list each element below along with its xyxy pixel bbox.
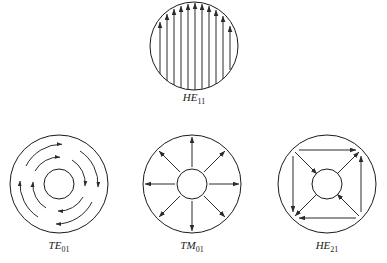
he11-arrow-group: [160, 3, 230, 90]
field-arrow-arc: [20, 181, 38, 217]
label-main: TE: [49, 239, 62, 251]
field-arrow: [159, 151, 180, 172]
label-sub: 11: [197, 97, 205, 106]
te01-inner-circle: [44, 169, 74, 199]
mode-label-tm01: TM01: [180, 239, 203, 254]
label-sub: 01: [61, 245, 69, 254]
panel-te01: TE01: [10, 135, 108, 254]
field-arrow-arc: [80, 151, 98, 187]
field-arrow: [295, 194, 317, 216]
tm01-inner-circle: [177, 169, 207, 199]
field-arrow: [159, 196, 180, 217]
panel-he11: HE11: [150, 2, 238, 106]
mode-diagram-canvas: HE11 TE01: [0, 0, 387, 263]
field-arrow: [204, 151, 225, 172]
he21-arrow-group: [293, 150, 361, 218]
te01-outer-circle: [10, 135, 108, 233]
mode-pattern-figure: HE11 TE01: [0, 0, 387, 263]
mode-label-he11: HE11: [182, 91, 205, 106]
field-arrow: [295, 152, 317, 174]
label-main: HE: [182, 91, 198, 103]
te01-arrow-group: [20, 144, 98, 224]
he11-outer-circle: [150, 2, 238, 90]
label-main: HE: [315, 239, 331, 251]
tm01-arrow-group: [145, 137, 239, 231]
panel-tm01: TM01: [143, 135, 241, 254]
field-arrow-arc: [26, 144, 62, 166]
label-main: TM: [180, 239, 196, 251]
field-arrow-arc: [56, 202, 92, 224]
label-sub: 01: [196, 245, 204, 254]
mode-label-te01: TE01: [49, 239, 70, 254]
field-arrow: [204, 196, 225, 217]
label-sub: 21: [330, 245, 338, 254]
panel-he21: HE21: [278, 135, 376, 254]
field-arrow: [337, 194, 359, 216]
field-arrow: [337, 152, 359, 174]
mode-label-he21: HE21: [315, 239, 339, 254]
